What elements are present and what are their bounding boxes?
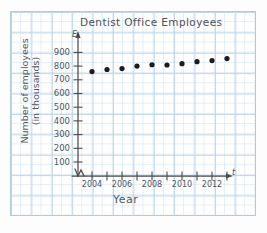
data-point — [104, 67, 109, 72]
x-tick-label: 2006 — [109, 180, 135, 189]
y-tick-label: 800 — [44, 61, 70, 71]
y-tick-label: 100 — [44, 157, 70, 167]
x-axis-title: Year — [113, 193, 138, 206]
data-point — [209, 58, 214, 63]
y-tick-label: 200 — [44, 143, 70, 153]
data-point — [119, 66, 124, 71]
x-tick-label: 2008 — [139, 180, 165, 189]
data-point — [164, 62, 169, 67]
axis-break-mark — [75, 169, 84, 176]
x-tick-label: 2010 — [169, 180, 195, 189]
x-tick-label: 2004 — [79, 180, 105, 189]
data-point-group — [89, 56, 229, 74]
y-tick-label: 500 — [44, 102, 70, 112]
chart-title: Dentist Office Employees — [80, 16, 222, 28]
y-axis-title: Number of employees (in thousands) — [19, 31, 45, 151]
scatter-plot-image: 900 800 700 600 500 400 300 200 100 2004… — [0, 0, 267, 233]
data-point — [149, 62, 154, 67]
y-tick-label: 300 — [44, 129, 70, 139]
data-point — [134, 64, 139, 69]
y-tick-label: 700 — [44, 74, 70, 84]
x-axis-variable-label: t — [232, 168, 235, 177]
data-point — [179, 61, 184, 66]
y-axis-variable-label: E — [72, 30, 77, 39]
y-tick-label: 900 — [44, 47, 70, 57]
data-point — [89, 69, 94, 74]
y-axis-title-line1: Number of employees — [19, 31, 30, 151]
data-point — [224, 56, 229, 61]
data-point — [194, 59, 199, 64]
y-tick-label: 600 — [44, 88, 70, 98]
y-tick-label: 400 — [44, 116, 70, 126]
y-axis-title-line2: (in thousands) — [30, 31, 41, 151]
x-tick-label: 2012 — [199, 180, 225, 189]
